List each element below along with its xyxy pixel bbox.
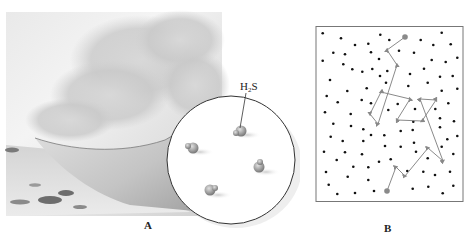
h2s-label: H2S — [240, 80, 258, 94]
panel-a-illustration: H2S A — [0, 0, 300, 240]
panel-b: B — [300, 0, 472, 240]
particle-field-frame — [316, 27, 463, 202]
panel-b-label: B — [384, 222, 392, 234]
random-walk-diagram: B — [300, 0, 472, 240]
panel-a-label: A — [144, 219, 152, 231]
walk-end-point — [402, 34, 408, 40]
magnifier-circle — [167, 96, 295, 224]
walk-start-point — [384, 188, 390, 194]
panel-a: H2S A — [0, 0, 300, 240]
